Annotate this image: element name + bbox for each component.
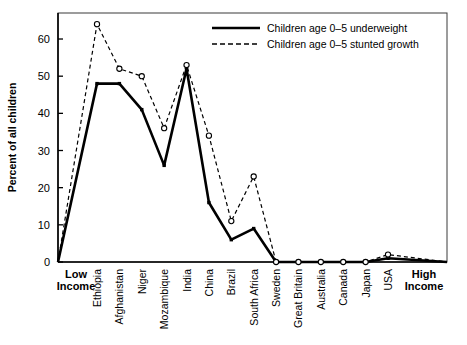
data-point-marker xyxy=(162,164,165,167)
data-point-marker xyxy=(184,62,189,67)
x-axis-category-label: South Africa xyxy=(248,269,260,326)
data-point-marker xyxy=(385,252,390,257)
x-axis-category-label: Mozambique xyxy=(158,269,170,329)
data-point-marker xyxy=(140,108,143,111)
data-point-marker xyxy=(341,259,346,264)
x-axis-category-label: Sweden xyxy=(270,269,282,307)
data-point-marker xyxy=(252,227,255,230)
data-point-marker xyxy=(118,82,121,85)
data-point-marker xyxy=(139,74,144,79)
axis-end-label-line2: Income xyxy=(405,280,444,292)
y-axis-tick-label: 30 xyxy=(38,145,50,157)
data-point-marker xyxy=(95,82,98,85)
legend-label: Children age 0–5 stunted growth xyxy=(267,38,419,50)
data-point-marker xyxy=(363,259,368,264)
y-axis-tick-label: 20 xyxy=(38,182,50,194)
x-axis-category-label: Niger xyxy=(136,268,148,294)
y-axis-tick-label: 60 xyxy=(38,33,50,45)
axis-end-label-line1: High xyxy=(412,268,437,280)
y-axis-tick-label: 10 xyxy=(38,219,50,231)
data-point-marker xyxy=(296,259,301,264)
x-axis-category-label: Canada xyxy=(337,269,349,306)
data-point-marker xyxy=(230,238,233,241)
chart-figure: 0102030405060 Percent of all children Et… xyxy=(0,0,467,345)
data-point-marker xyxy=(94,22,99,27)
data-point-marker xyxy=(162,126,167,131)
y-axis-tick-label: 40 xyxy=(38,107,50,119)
x-axis-category-label: Afghanistan xyxy=(113,269,125,325)
legend-label: Children age 0–5 underweight xyxy=(267,22,407,34)
y-axis-tick-label: 50 xyxy=(38,70,50,82)
data-point-marker xyxy=(251,174,256,179)
axis-start-label-line1: Low xyxy=(65,268,87,280)
y-axis-tick-label: 0 xyxy=(44,256,50,268)
x-axis-category-label: Great Britain xyxy=(292,269,304,328)
data-point-marker xyxy=(318,259,323,264)
data-point-marker xyxy=(229,219,234,224)
x-axis-category-label: Brazil xyxy=(225,269,237,295)
data-point-marker xyxy=(117,66,122,71)
axis-start-label-line2: Income xyxy=(57,280,96,292)
x-axis-category-label: Japan xyxy=(360,269,372,298)
x-axis-category-label: USA xyxy=(382,269,394,291)
x-axis-category-label: India xyxy=(181,269,193,292)
data-point-marker xyxy=(206,133,211,138)
x-axis-category-label: Australia xyxy=(315,269,327,310)
x-axis-category-label: China xyxy=(203,269,215,297)
y-axis-title: Percent of all children xyxy=(6,83,18,193)
data-point-marker xyxy=(273,259,278,264)
data-point-marker xyxy=(207,201,210,204)
y-axis-title-text: Percent of all children xyxy=(6,83,18,193)
